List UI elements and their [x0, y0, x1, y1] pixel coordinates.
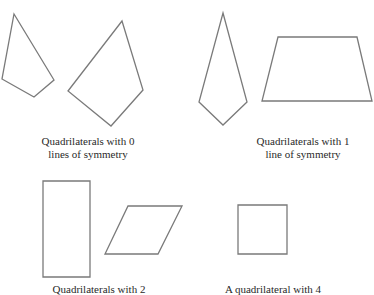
- caption-zero-lines: Quadrilaterals with 0 lines of symmetry: [33, 135, 143, 161]
- caption-four-lines: A quadrilateral with 4: [213, 283, 333, 295]
- square: [238, 205, 287, 254]
- caption-line: Quadrilaterals with 0: [33, 135, 143, 148]
- irregular-quadrilateral-a: [2, 14, 54, 97]
- caption-line: Quadrilaterals with 1: [248, 135, 358, 148]
- irregular-quadrilateral-b: [68, 21, 143, 126]
- caption-line: line of symmetry: [248, 148, 358, 161]
- caption-line: A quadrilateral with 4: [213, 283, 333, 295]
- caption-line: lines of symmetry: [33, 148, 143, 161]
- rhombus: [105, 206, 182, 254]
- rectangle: [43, 181, 90, 277]
- caption-two-lines: Quadrilaterals with 2: [44, 283, 154, 295]
- isosceles-trapezoid: [262, 37, 372, 101]
- caption-one-line: Quadrilaterals with 1 line of symmetry: [248, 135, 358, 161]
- caption-line: Quadrilaterals with 2: [44, 283, 154, 295]
- kite: [199, 13, 247, 125]
